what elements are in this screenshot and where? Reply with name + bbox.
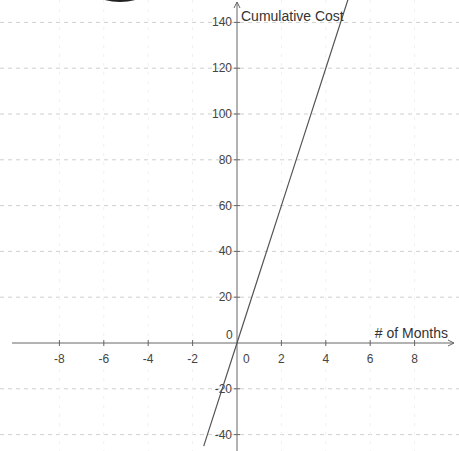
x-tick-label: -2 bbox=[187, 352, 198, 366]
x-tick-label: 4 bbox=[322, 352, 329, 366]
x-tick-label: -8 bbox=[54, 352, 65, 366]
x-tick-label: 8 bbox=[411, 352, 418, 366]
x-axis-title: # of Months bbox=[375, 325, 448, 341]
y-axis-title: Cumulative Cost bbox=[241, 8, 344, 24]
y-tick-labels: -40-2020406080100120140 bbox=[212, 15, 232, 441]
y-tick-label: -40 bbox=[215, 428, 233, 442]
y-tick-label: 140 bbox=[212, 15, 232, 29]
origin-label: 0 bbox=[226, 328, 233, 342]
y-tick-label: 60 bbox=[219, 199, 233, 213]
x-tick-label: -4 bbox=[143, 352, 154, 366]
line-chart: -8-6-4-224680 -40-2020406080100120140 # … bbox=[0, 0, 459, 451]
y-tick-label: 80 bbox=[219, 153, 233, 167]
y-tick-label: 120 bbox=[212, 61, 232, 75]
axes bbox=[12, 2, 454, 451]
x-tick-label: -6 bbox=[98, 352, 109, 366]
x-tick-label: 6 bbox=[367, 352, 374, 366]
x-tick-label: 2 bbox=[278, 352, 285, 366]
y-tick-label: 20 bbox=[219, 290, 233, 304]
x-tick-labels: -8-6-4-224680 bbox=[54, 352, 418, 366]
x-tick-label-zero: 0 bbox=[243, 352, 250, 366]
y-tick-label: 40 bbox=[219, 244, 233, 258]
y-tick-label: 100 bbox=[212, 107, 232, 121]
